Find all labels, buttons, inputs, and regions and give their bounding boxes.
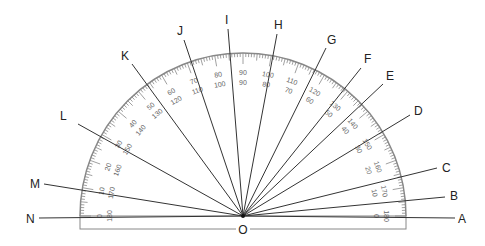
- protractor-tick: [204, 58, 205, 62]
- protractor-tick: [132, 97, 135, 100]
- scale-outer-number: 60: [166, 87, 176, 97]
- protractor-tick: [206, 57, 207, 61]
- scale-inner-number: 20: [364, 165, 373, 175]
- protractor-tick: [185, 64, 186, 68]
- ray-label-e: E: [386, 69, 394, 83]
- protractor-arc: [80, 53, 406, 216]
- protractor-tick: [359, 111, 367, 118]
- scale-inner-number: 170: [107, 186, 116, 199]
- protractor-tick: [363, 109, 366, 112]
- protractor-tick: [162, 75, 168, 85]
- scale-outer-number: 110: [286, 76, 299, 86]
- scale-outer-number: 20: [103, 162, 112, 172]
- protractor-tick: [386, 145, 390, 147]
- protractor-tick: [300, 64, 301, 68]
- scale-outer-number: 80: [214, 70, 223, 78]
- protractor-tick: [134, 95, 137, 98]
- protractor-tick: [136, 93, 139, 96]
- protractor-tick: [319, 75, 325, 85]
- protractor-tick: [95, 147, 101, 150]
- protractor-tick: [390, 155, 394, 156]
- protractor-tick: [124, 105, 127, 108]
- protractor-tick: [93, 152, 97, 154]
- protractor-tick: [308, 67, 310, 71]
- protractor-tick: [303, 65, 304, 69]
- protractor-tick: [385, 142, 389, 144]
- scale-inner-number: 70: [284, 86, 294, 95]
- ray-label-h: H: [274, 18, 283, 32]
- scale-inner-number: 40: [340, 125, 350, 136]
- protractor-tick: [164, 73, 166, 76]
- protractor-tick: [371, 123, 377, 127]
- protractor-tick: [395, 168, 399, 169]
- protractor-tick: [309, 68, 312, 74]
- protractor-tick: [152, 81, 154, 84]
- protractor-tick: [327, 78, 329, 81]
- ray-label-a: A: [458, 212, 466, 226]
- protractor-tick: [157, 78, 159, 81]
- protractor-tick: [94, 150, 98, 152]
- protractor-tick: [87, 168, 91, 169]
- ray-label-l: L: [60, 109, 67, 123]
- scale-inner-number: 90: [239, 79, 247, 86]
- protractor-tick: [357, 103, 360, 106]
- protractor-tick: [166, 72, 168, 76]
- ray-i: [228, 29, 243, 216]
- protractor-tick: [389, 152, 393, 154]
- protractor-tick: [279, 57, 280, 61]
- protractor-tick: [318, 72, 320, 76]
- ray-b: [243, 197, 445, 216]
- protractor-tick: [349, 95, 352, 98]
- scale-outer-number: 100: [262, 70, 275, 79]
- scale-outer-number: 90: [239, 69, 247, 76]
- protractor-tick: [394, 174, 401, 176]
- ray-label-d: D: [414, 104, 423, 118]
- protractor-tick: [182, 65, 183, 69]
- protractor-tick: [361, 107, 364, 110]
- protractor-tick: [82, 193, 86, 194]
- protractor-tick: [384, 147, 390, 150]
- center-label: O: [238, 223, 247, 237]
- ray-label-k: K: [121, 49, 129, 63]
- protractor-tick: [398, 179, 402, 180]
- ray-label-b: B: [450, 189, 458, 203]
- protractor-tick: [339, 86, 341, 89]
- scale-inner-number: 120: [169, 94, 183, 106]
- protractor-tick: [372, 120, 375, 122]
- protractor-tick: [113, 118, 116, 120]
- protractor-tick: [257, 54, 258, 61]
- protractor-tick: [82, 188, 93, 190]
- protractor-tick: [89, 163, 93, 164]
- protractor-tick: [289, 60, 290, 64]
- protractor-tick: [122, 107, 125, 110]
- protractor-tick: [92, 155, 96, 156]
- protractor-diagram: 0180101702016030150401405013060120701108…: [0, 0, 485, 246]
- protractor-tick: [265, 55, 266, 59]
- center-point: [241, 214, 245, 218]
- protractor-tick: [138, 91, 145, 99]
- protractor-tick: [86, 171, 90, 172]
- protractor-tick: [368, 116, 371, 118]
- protractor-tick: [84, 179, 88, 180]
- scale-outer-number: 170: [380, 185, 389, 198]
- protractor-tick: [177, 67, 179, 71]
- protractor-tick: [220, 55, 221, 59]
- protractor-tick: [96, 145, 100, 147]
- scale-outer-number: 40: [128, 118, 138, 129]
- scale-inner-number: 160: [112, 164, 123, 177]
- scale-inner-number: 80: [262, 80, 271, 88]
- protractor-tick: [382, 137, 385, 139]
- scale-outer-number: 50: [145, 101, 156, 111]
- protractor-tick: [159, 76, 161, 79]
- protractor-tick: [140, 89, 143, 92]
- protractor-tick: [388, 150, 392, 152]
- ray-f: [243, 68, 361, 216]
- protractor-tick: [336, 84, 338, 87]
- protractor-tick: [91, 158, 95, 159]
- protractor-tick: [118, 111, 126, 118]
- scale-outer-number: 180: [383, 210, 390, 222]
- protractor-tick: [376, 127, 379, 129]
- protractor-tick: [154, 79, 156, 82]
- protractor-tick: [305, 66, 307, 70]
- ray-k: [132, 64, 243, 216]
